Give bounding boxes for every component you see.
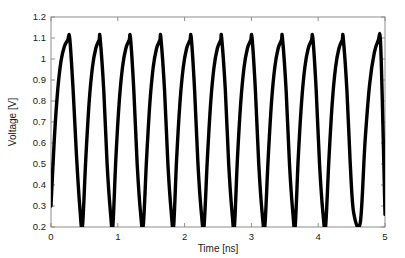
x-tick-label: 1 (115, 231, 120, 242)
y-tick-label: 0.7 (33, 116, 46, 127)
y-tick-label: 0.2 (33, 221, 46, 232)
y-tick-label: 0.4 (33, 179, 46, 190)
x-axis-title: Time [ns] (198, 243, 239, 254)
figure-canvas: 012345 0.20.30.40.50.60.70.80.911.11.2 T… (0, 0, 405, 258)
y-tick-label: 0.8 (33, 95, 46, 106)
x-tick-label: 5 (382, 231, 387, 242)
x-tick-label: 2 (182, 231, 187, 242)
x-tick-label: 4 (316, 231, 321, 242)
y-tick-label: 0.9 (33, 74, 46, 85)
y-tick-label: 1.1 (33, 32, 46, 43)
y-tick-label: 0.6 (33, 137, 46, 148)
y-tick-label: 1.2 (33, 11, 46, 22)
y-tick-label: 0.5 (33, 158, 46, 169)
x-tick-label: 3 (249, 231, 254, 242)
y-tick-label: 1 (41, 53, 46, 64)
chart-plot: 012345 0.20.30.40.50.60.70.80.911.11.2 T… (0, 0, 405, 258)
x-tick-label: 0 (48, 231, 53, 242)
y-axis-title: Voltage [V] (7, 98, 18, 147)
y-tick-label: 0.3 (33, 200, 46, 211)
